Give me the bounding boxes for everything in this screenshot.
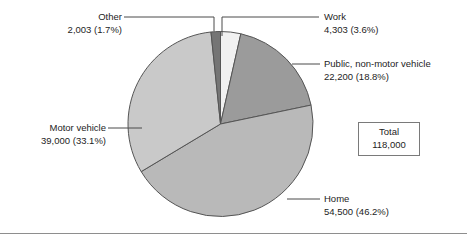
pie-chart-graphic — [0, 0, 467, 242]
leader-line-other — [124, 17, 214, 31]
callout-name-public-non-motor-vehicle: Public, non-motor vehicle — [324, 58, 431, 71]
total-box-label: Total — [359, 126, 419, 139]
callout-amount-home: 54,500 (46.2%) — [324, 206, 389, 219]
callout-label-motor-vehicle: Motor vehicle 39,000 (33.1%) — [0, 122, 106, 147]
total-box-value: 118,000 — [359, 139, 419, 152]
callout-name-other: Other — [0, 11, 122, 24]
callout-name-motor-vehicle: Motor vehicle — [0, 122, 106, 135]
pie-chart-figure: Other 2,003 (1.7%) Work 4,303 (3.6%) Pub… — [0, 0, 467, 242]
footer-divider — [0, 233, 467, 234]
callout-amount-other: 2,003 (1.7%) — [0, 24, 122, 37]
callout-label-public-non-motor-vehicle: Public, non-motor vehicle 22,200 (18.8%) — [324, 58, 431, 83]
callout-name-home: Home — [324, 193, 389, 206]
callout-amount-work: 4,303 (3.6%) — [324, 24, 378, 37]
callout-label-work: Work 4,303 (3.6%) — [324, 11, 378, 36]
callout-label-home: Home 54,500 (46.2%) — [324, 193, 389, 218]
callout-label-other: Other 2,003 (1.7%) — [0, 11, 122, 36]
callout-name-work: Work — [324, 11, 378, 24]
total-box: Total 118,000 — [358, 122, 420, 156]
callout-amount-public-non-motor-vehicle: 22,200 (18.8%) — [324, 71, 431, 84]
callout-amount-motor-vehicle: 39,000 (33.1%) — [0, 135, 106, 148]
